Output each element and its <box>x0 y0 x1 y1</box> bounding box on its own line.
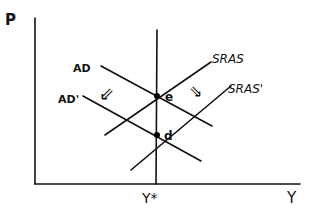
equilibrium-point-d <box>154 132 160 138</box>
potential-output-label: Y* <box>141 190 158 206</box>
x-axis-label: Y <box>286 189 297 207</box>
ad-as-diagram: P Y Y* AD AD' SRAS SRAS' e d ⇙ ⇘ <box>0 0 318 217</box>
potential-output-line <box>156 30 157 184</box>
sras-shift-arrow-icon: ⇘ <box>189 82 202 101</box>
point-d-label: d <box>164 129 173 143</box>
point-e-label: e <box>165 90 173 104</box>
ad-label: AD <box>73 62 91 75</box>
ad-shift-arrow-icon: ⇙ <box>99 83 114 104</box>
sras-prime-curve <box>131 86 231 170</box>
sras-label: SRAS <box>212 52 244 66</box>
sras-prime-label: SRAS' <box>228 82 263 96</box>
equilibrium-point-e <box>154 93 160 99</box>
y-axis-label: P <box>5 11 16 29</box>
ad-prime-label: AD' <box>58 93 79 106</box>
ad-prime-curve <box>83 96 201 161</box>
